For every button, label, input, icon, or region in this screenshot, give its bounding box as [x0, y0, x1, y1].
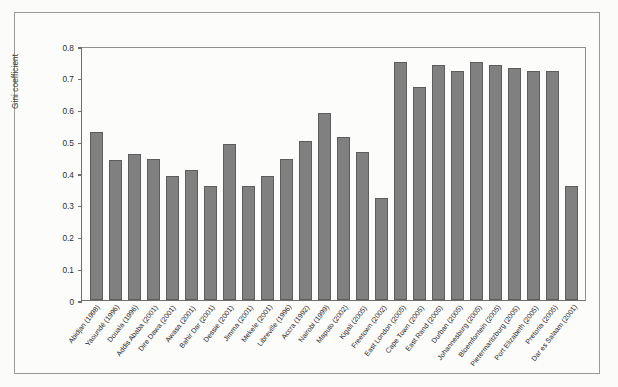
y-axis-tick-label: 0.7 [52, 74, 74, 84]
bar-cell [467, 48, 486, 300]
plot-area: 00.10.20.30.40.50.60.70.8 [81, 47, 586, 301]
bar-cell [353, 48, 372, 300]
bar [261, 176, 274, 300]
bar-cell [486, 48, 505, 300]
figure-container: Gini coefficient 00.10.20.30.40.50.60.70… [0, 0, 618, 387]
bar-cell [201, 48, 220, 300]
bar [565, 186, 578, 300]
bar [508, 68, 521, 300]
bar [90, 132, 103, 300]
y-axis-tick-label: 0.2 [52, 233, 74, 243]
bar-cell [163, 48, 182, 300]
bar-series [82, 48, 585, 300]
bar [546, 71, 559, 300]
y-axis-tick-label: 0.4 [52, 170, 74, 180]
bar [109, 160, 122, 300]
bar [394, 62, 407, 300]
bar-cell [258, 48, 277, 300]
bar-cell [505, 48, 524, 300]
bar [375, 198, 388, 300]
bar-cell [296, 48, 315, 300]
bar [223, 144, 236, 300]
bar-cell [182, 48, 201, 300]
figure-frame: Gini coefficient 00.10.20.30.40.50.60.70… [14, 12, 600, 374]
bar-cell [429, 48, 448, 300]
bar-cell [125, 48, 144, 300]
bar [128, 154, 141, 300]
bar-cell [315, 48, 334, 300]
bar-cell [106, 48, 125, 300]
bar [451, 71, 464, 300]
y-axis-tick-label: 0.6 [52, 106, 74, 116]
bar-cell [372, 48, 391, 300]
bar-cell [391, 48, 410, 300]
bar [413, 87, 426, 300]
bar-cell [277, 48, 296, 300]
bar [166, 176, 179, 300]
bar [527, 71, 540, 300]
bar [318, 113, 331, 300]
bar [432, 65, 445, 300]
y-axis-tick-label: 0 [52, 297, 74, 307]
bar-cell [410, 48, 429, 300]
bar [470, 62, 483, 300]
bar [185, 170, 198, 300]
bar-cell [524, 48, 543, 300]
bar-cell [543, 48, 562, 300]
bar-cell [562, 48, 581, 300]
y-axis-tick-label: 0.8 [52, 43, 74, 53]
bar [489, 65, 502, 300]
bar-cell [220, 48, 239, 300]
y-axis-tick-label: 0.5 [52, 138, 74, 148]
y-axis-tick-label: 0.3 [52, 201, 74, 211]
bar-cell [239, 48, 258, 300]
y-axis-tick-label: 0.1 [52, 265, 74, 275]
bar [299, 141, 312, 300]
bar [242, 186, 255, 300]
bar [337, 137, 350, 301]
bar-cell [334, 48, 353, 300]
bar [204, 186, 217, 300]
y-axis-tick-mark [78, 301, 83, 302]
bar-cell [87, 48, 106, 300]
bar-cell [448, 48, 467, 300]
bar-cell [144, 48, 163, 300]
bar [356, 152, 369, 300]
y-axis-label: Gini coefficient [11, 0, 20, 109]
bar [280, 159, 293, 300]
bar [147, 159, 160, 300]
